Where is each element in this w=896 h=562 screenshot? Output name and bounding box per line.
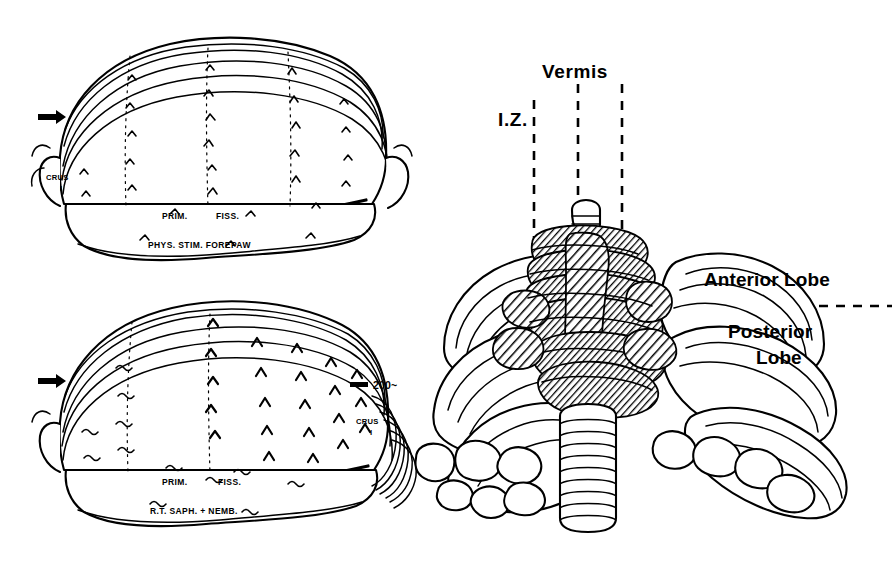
caption-bottom-panel: R.T. SAPH. + NEMB.: [150, 506, 238, 516]
fissure-arrow-marker-top: [38, 110, 66, 124]
crus-label-bottom-line1: CRUS: [356, 417, 379, 426]
crus-label-bottom-line2: I: [370, 428, 372, 437]
lobe-label-posterior-line2: Lobe: [756, 347, 802, 368]
crus-label-top-line1: CRUS: [46, 173, 69, 182]
paraflocculus-lobules-left: [416, 441, 545, 518]
caption-top-panel: PHYS. STIM. FOREPAW: [148, 240, 251, 250]
scale-bar: [350, 382, 368, 387]
crus-label-top-line2: I: [60, 184, 62, 193]
panel-unfolded-cerebellum-overview: Vermis I.Z. Anterior Lobe Posterior Lobe: [400, 18, 896, 558]
panel-physiological-stimulation-map: CRUS I PRIM. FISS. PHYS. STIM. FOREPAW: [20, 8, 420, 263]
primary-fissure-label-bottom: PRIM.: [162, 477, 188, 487]
folia-bands-top: [32, 38, 412, 261]
inferior-vermis-column: [560, 404, 616, 532]
primary-fissure-label-top: PRIM.: [162, 211, 188, 221]
scale-bar-label: 200~: [373, 379, 397, 391]
lobe-label-anterior: Anterior Lobe: [704, 269, 830, 290]
figure-root: CRUS I PRIM. FISS. PHYS. STIM. FOREPAW: [0, 0, 896, 562]
fissure-arrow-marker-bottom: [38, 374, 66, 388]
panel-saphenous-stimulation-map: 200~ CRUS I PRIM. FISS. R.T. SAPH. + NEM…: [20, 272, 420, 534]
primary-fissure-label-bottom-2: FISS.: [218, 477, 241, 487]
lobe-label-posterior-line1: Posterior: [728, 321, 813, 342]
zone-label-vermis: Vermis: [542, 61, 608, 82]
primary-fissure-label-top-2: FISS.: [216, 211, 239, 221]
zone-label-iz: I.Z.: [498, 109, 528, 130]
